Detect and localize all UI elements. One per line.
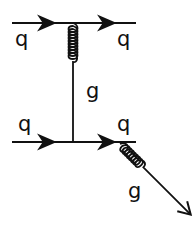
t-channel-gluon — [69, 23, 78, 142]
bottom-quark-line — [12, 136, 136, 148]
label-exchanged-gluon: g — [86, 79, 99, 103]
label-emitted-gluon: g — [128, 179, 141, 203]
label-top-right-quark: q — [117, 27, 130, 51]
feynman-diagram: q q g q q g — [0, 0, 196, 228]
label-bottom-left-quark: q — [18, 112, 31, 136]
label-bottom-right-quark: q — [117, 112, 130, 136]
label-top-left-quark: q — [15, 27, 28, 51]
